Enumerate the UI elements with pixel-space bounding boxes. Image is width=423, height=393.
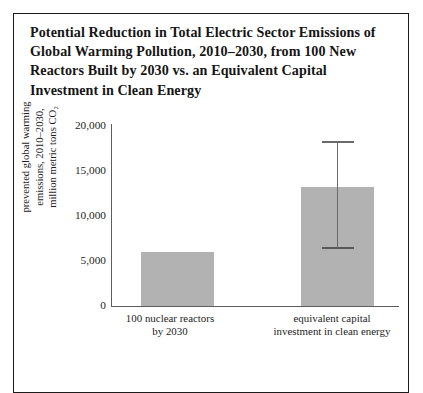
y-tick-label: 10,000 (50, 210, 106, 221)
y-tick-label: 0 (50, 300, 106, 311)
category-label-line-2: by 2030 (92, 325, 248, 338)
y-tick-label: 15,000 (50, 165, 106, 176)
category-label-line-1: 100 nuclear reactors (92, 312, 248, 325)
y-axis-line (111, 124, 112, 306)
figure-frame: Potential Reduction in Total Electric Se… (13, 13, 409, 393)
x-axis-category-label-0: 100 nuclear reactors by 2030 (92, 312, 248, 339)
y-tick-20000: 20,000 (46, 120, 106, 132)
y-tick-10000: 10,000 (46, 210, 106, 222)
y-tick-label: 5,000 (50, 255, 106, 266)
error-bar-upper-cap (322, 141, 354, 143)
y-axis-title-line-1: prevented global warming (19, 77, 33, 237)
y-tick-0: 0 (46, 300, 106, 312)
error-bar-stem (337, 141, 338, 247)
category-label-line-1: equivalent capital (254, 312, 410, 325)
x-axis-category-label-1: equivalent capital investment in clean e… (254, 312, 410, 339)
bar-100-nuclear-reactors (141, 252, 214, 306)
category-label-line-2: investment in clean energy (254, 325, 410, 338)
error-bar-lower-cap (322, 247, 354, 249)
y-axis-title-line-2: emissions, 2010–2030, (33, 77, 47, 237)
plot-area: prevented global warming emissions, 2010… (14, 14, 410, 364)
y-tick-label: 20,000 (50, 120, 106, 131)
y-tick-15000: 15,000 (46, 165, 106, 177)
y-tick-5000: 5,000 (46, 255, 106, 267)
